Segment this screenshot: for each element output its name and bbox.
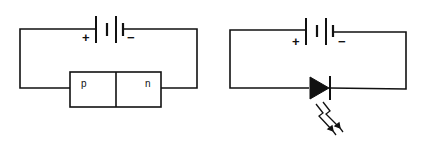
light-emission-arrows-icon: [316, 102, 343, 135]
right-battery-minus-label: −: [338, 34, 346, 49]
left-battery-minus-label: −: [127, 30, 135, 45]
battery-icon: [306, 18, 333, 45]
n-region-label: n: [145, 78, 151, 89]
right-battery-plus-label: +: [292, 34, 300, 49]
left-battery-plus-label: +: [82, 30, 90, 45]
p-region-label: p: [81, 78, 87, 89]
battery-icon: [96, 16, 123, 43]
left-circuit-pn-junction: [20, 16, 197, 107]
led-diode-icon: [310, 76, 330, 100]
right-circuit-led: [230, 18, 406, 135]
circuit-diagrams: + − p n + −: [0, 0, 429, 143]
